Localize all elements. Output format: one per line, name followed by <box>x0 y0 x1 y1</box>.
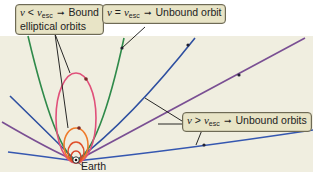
orbit-marker-dot <box>77 126 81 130</box>
orbit-marker-dot <box>202 143 205 146</box>
orbit-marker-dot <box>237 73 240 76</box>
orbit-marker-dot <box>84 77 88 81</box>
unbound-leader-line <box>196 130 202 145</box>
unbound-orbits-label: v > vesc ➞ Unbound orbits <box>182 112 312 132</box>
hyperbola-purple-orbit <box>2 38 305 161</box>
orbit-marker-dot <box>186 43 189 46</box>
escape-leader-line <box>122 27 145 48</box>
hyperbola-flat-orbit <box>8 130 313 161</box>
arrow-icon: ➞ <box>224 116 232 126</box>
arrow-icon: ➞ <box>57 8 65 18</box>
earth-label: Earth <box>81 160 106 172</box>
escape-orbit-label: v = vesc ➞ Unbound orbit <box>102 4 226 24</box>
bound-orbits-label: v < vesc ➞ Bound elliptical orbits <box>15 4 104 35</box>
bound-leader-line <box>55 34 68 128</box>
unbound-leader-line <box>145 98 182 121</box>
arrow-icon: ➞ <box>144 8 152 18</box>
orbit-diagram: v < vesc ➞ Bound elliptical orbits v = v… <box>0 0 313 178</box>
